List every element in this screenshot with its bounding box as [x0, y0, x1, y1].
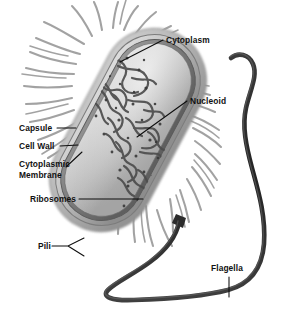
label-pili: Pili [38, 241, 51, 251]
diagram-canvas: Cytoplasm Nucleoid Capsule Cell Wall Cyt… [0, 0, 284, 317]
label-capsule: Capsule [19, 123, 53, 133]
label-flagella: Flagella [211, 263, 243, 273]
label-cytoplasmic-membrane-line2: Membrane [19, 170, 62, 180]
label-ribosomes: Ribosomes [30, 194, 76, 204]
label-nucleoid: Nucleoid [190, 96, 226, 106]
label-cell-wall: Cell Wall [19, 141, 55, 151]
label-cytoplasmic-membrane-line1: Cytoplasmic [19, 159, 70, 169]
leader-pili [52, 238, 84, 256]
bacterial-cell-diagram: Cytoplasm Nucleoid Capsule Cell Wall Cyt… [0, 0, 284, 317]
label-cytoplasm: Cytoplasm [166, 35, 210, 45]
